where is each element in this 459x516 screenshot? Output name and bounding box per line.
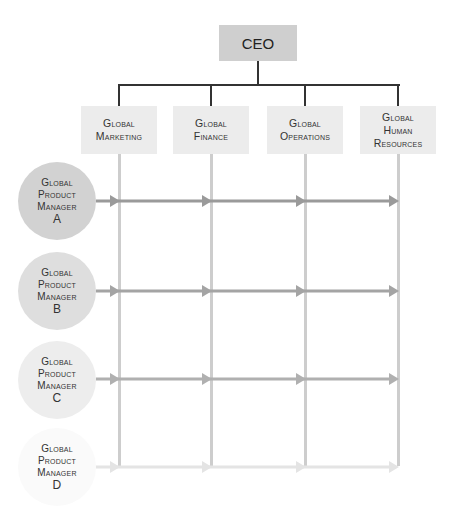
arrow-row-c <box>96 373 399 385</box>
gpm-label-line: Manager <box>37 467 76 479</box>
gpm-label-line: Global <box>41 443 73 455</box>
gpm-label-line: Manager <box>37 201 76 213</box>
gpm-c-circle: Global Product Manager C <box>18 341 96 419</box>
gpm-label-line: Product <box>38 189 76 201</box>
gpm-label-line: Global <box>41 177 73 189</box>
gpm-d-circle: Global Product Manager D <box>18 428 96 506</box>
gpm-letter: A <box>53 213 61 226</box>
gpm-label-line: Global <box>41 267 73 279</box>
gpm-letter: B <box>53 303 61 316</box>
gpm-label-line: Manager <box>37 291 76 303</box>
gpm-label-line: Product <box>38 279 76 291</box>
gpm-letter: D <box>53 479 62 492</box>
gpm-a-circle: Global Product Manager A <box>18 162 96 240</box>
gpm-label-line: Global <box>41 356 73 368</box>
gpm-label-line: Product <box>38 368 76 380</box>
arrow-row-b <box>96 285 399 297</box>
gpm-letter: C <box>53 392 62 405</box>
gpm-b-circle: Global Product Manager B <box>18 252 96 330</box>
gpm-label-line: Manager <box>37 380 76 392</box>
arrow-row-a <box>96 195 399 207</box>
gpm-label-line: Product <box>38 455 76 467</box>
arrow-row-d <box>96 461 399 473</box>
